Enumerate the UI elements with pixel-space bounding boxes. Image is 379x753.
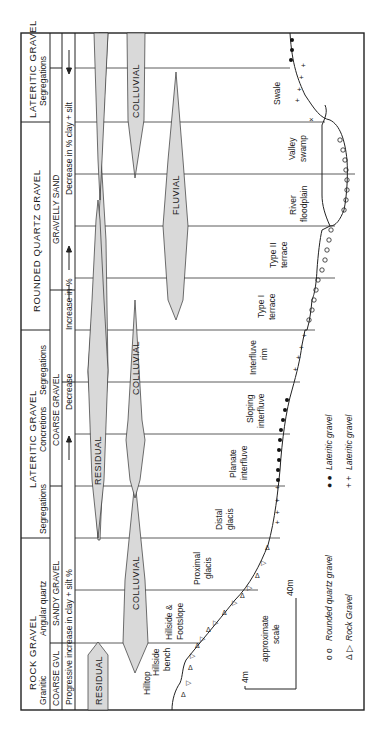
legend-lateritic-plus: Lateritic gravel <box>344 414 354 470</box>
legend-symbol-rounded: o o <box>324 648 334 660</box>
texture-coarse-gravel: COARSE GRAVEL <box>51 374 61 446</box>
group-rounded-quartz-gravel-label: ROUNDED QUARTZ GRAVEL <box>31 169 42 312</box>
svg-text:Δ: Δ <box>240 592 245 599</box>
group-lateritic-gravel-2-label: LATERITIC GRAVEL <box>27 20 38 118</box>
svg-text:+: + <box>275 483 280 492</box>
legend-rock-gravel: Rock Gravel <box>344 593 354 641</box>
band-label-colluvial-2: COLLUVIAL <box>131 341 141 395</box>
texture-sandy-gravel: SANDY GRAVEL <box>51 560 61 626</box>
legend: o o Rounded quartz gravel Δ ▷ Rock Grave… <box>324 414 354 660</box>
texture-coarse-gvl: COARSE GVL <box>51 650 61 706</box>
landform-sloping-interfluve-2: interfluve <box>256 393 266 428</box>
landform-river-floodplain-1: River <box>288 195 298 215</box>
landform-valley-swamp-1: Valley <box>287 137 297 160</box>
svg-text:Δ: Δ <box>222 609 227 616</box>
rounded-quartz-symbols <box>307 138 349 322</box>
landform-dividers <box>75 68 355 643</box>
landform-hillside-footslope-2: Footslope <box>175 602 185 640</box>
landform-type-ii-terrace-1: Type II <box>268 242 278 268</box>
landscape-gravel-diagram: ROCK GRAVEL Granitic Angular quartz LATE… <box>0 0 379 753</box>
svg-text:Δ: Δ <box>206 626 211 633</box>
svg-text:+: + <box>299 343 304 352</box>
landform-swale: Swale <box>272 82 282 105</box>
landform-type-i-terrace-1: Type I <box>256 295 266 318</box>
sub-segregations-2: Segregations <box>38 345 48 395</box>
landform-distal-glacis-2: glacis <box>225 508 235 530</box>
landform-type-ii-terrace-2: terrace <box>279 241 289 268</box>
landform-valley-swamp-2: swamp <box>298 135 308 162</box>
svg-text:▷: ▷ <box>186 679 192 686</box>
sub-angular-quartz: Angular quartz <box>38 581 48 636</box>
band-label-residual-2: RESIDUAL <box>93 436 103 485</box>
svg-text:Δ: Δ <box>188 664 193 671</box>
svg-text:×: × <box>309 115 314 124</box>
svg-text:Δ: Δ <box>255 572 260 579</box>
svg-text:▷: ▷ <box>232 599 238 606</box>
profile-line <box>172 33 347 710</box>
progression-increase: Progressive increase in clay + silt % <box>64 569 74 705</box>
svg-text:Δ: Δ <box>181 691 186 698</box>
sub-concretions: Concretions <box>38 407 48 452</box>
scale-label-2: scale <box>271 624 281 644</box>
landform-proximal-glacis-1: Proximal <box>192 552 202 585</box>
landform-planate-interfluve-2: interfluve <box>239 445 249 480</box>
scale-40m: 40m <box>285 579 295 596</box>
scale-bar: 4m 40m approximate scale <box>240 579 296 689</box>
svg-text:▷: ▷ <box>213 619 219 626</box>
svg-text:+: + <box>275 496 280 505</box>
landform-proximal-glacis-2: glacis <box>203 557 213 579</box>
sub-segregations-3: Segregations <box>38 56 48 106</box>
svg-text:+: + <box>302 331 307 340</box>
scale-4m: 4m <box>240 671 250 683</box>
sub-segregations: Segregations <box>38 484 48 534</box>
svg-text:▷: ▷ <box>190 652 196 659</box>
band-label-colluvial: COLLUVIAL <box>131 556 141 610</box>
svg-text:+: + <box>293 365 298 374</box>
svg-text:Δ: Δ <box>265 544 270 551</box>
sub-granitic: Granitic <box>38 675 48 705</box>
svg-text:+: + <box>301 61 306 70</box>
landform-interfluve-rim-2: rim <box>259 348 269 360</box>
svg-text:+: + <box>275 508 280 517</box>
legend-symbol-lateritic-plus: + + <box>344 476 354 488</box>
landform-type-i-terrace-2: terrace <box>267 293 277 320</box>
svg-text:+: + <box>296 353 301 362</box>
band-residual-top <box>94 33 108 200</box>
landform-hillside-footslope-1: Hillside & <box>164 604 174 640</box>
landform-hillside-bench-1: Hillside <box>151 648 161 676</box>
svg-text:Δ: Δ <box>195 642 200 649</box>
floodplain-line <box>322 105 330 226</box>
legend-symbol-rock: Δ ▷ <box>344 645 354 660</box>
group-rock-gravel-label: ROCK GRAVEL <box>27 615 38 690</box>
landform-planate-interfluve-1: Planate <box>228 449 238 478</box>
svg-text:+: + <box>275 518 280 527</box>
progression-decrease: Decrease <box>64 373 74 410</box>
group-lateritic-gravel-label: LATERITIC GRAVEL <box>27 390 38 488</box>
legend-rounded-quartz: Rounded quartz gravel <box>324 554 334 641</box>
band-label-fluvial: FLUVIAL <box>171 175 181 215</box>
landform-river-floodplain-2: floodplain <box>299 185 309 222</box>
progression-decrease-pct: Decrease in % clay + silt <box>64 102 74 195</box>
scale-label-1: approximate <box>260 615 270 662</box>
legend-symbol-lateritic-dot: ● ● <box>324 475 334 488</box>
texture-gravelly-sand: GRAVELLY SAND <box>51 175 61 244</box>
landform-hillside-bench-2: bench <box>162 648 172 671</box>
landform-interfluve-rim-1: Interfluve <box>248 340 258 375</box>
svg-text:+: + <box>295 96 300 105</box>
legend-lateritic-dot: Lateritic gravel <box>324 414 334 470</box>
landform-distal-glacis-1: Distal <box>214 509 224 530</box>
band-label-residual: RESIDUAL <box>94 656 104 705</box>
landform-sloping-interfluve-1: Sloping <box>245 394 255 423</box>
svg-text:▷: ▷ <box>261 559 267 566</box>
svg-text:+: + <box>297 85 302 94</box>
band-label-colluvial-3: COLLUVIAL <box>131 64 141 118</box>
svg-text:+: + <box>299 73 304 82</box>
